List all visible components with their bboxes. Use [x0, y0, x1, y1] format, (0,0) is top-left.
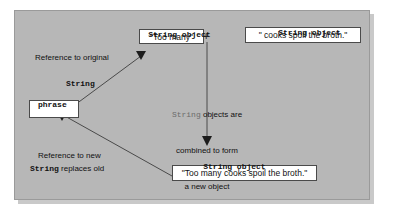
caption-first-type: String object [148, 30, 210, 39]
label-reference-original-type: String [66, 79, 95, 88]
label-reference-to-original: Reference to original [35, 52, 109, 63]
figure-canvas: String object "Too many" + String object… [0, 0, 393, 216]
caption-second-type: String object [278, 28, 340, 37]
note-mono-string: String [172, 110, 201, 119]
label-reference-new-type: String [30, 164, 59, 173]
label-reference-to-new: Reference to new [38, 150, 101, 161]
label-variable-phrase: phrase [38, 100, 67, 109]
caption-result-string-object: String object [165, 150, 295, 183]
caption-result-type: String object [203, 162, 265, 171]
label-reference-new-row: String replaces old [30, 163, 104, 174]
label-reference-new-tail: replaces old [59, 164, 104, 173]
note-line-1: String objects are [152, 109, 262, 121]
note-rest: objects are [201, 110, 242, 119]
caption-second-string-object: String object [240, 16, 370, 49]
plus-operator: + [203, 30, 209, 42]
